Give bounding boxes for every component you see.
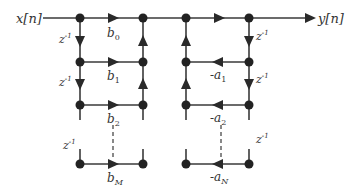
diagram-canvas: x[n] y[n] z-1 z-1 z-1 z-1 z-1 z-1 b0 b1 …	[0, 0, 356, 194]
svg-text:z-1: z-1	[58, 75, 72, 89]
svg-text:b2: b2	[107, 112, 120, 128]
svg-text:-a1: -a1	[210, 68, 226, 84]
input-label: x[n]	[16, 11, 43, 26]
signal-flow-diagram: x[n] y[n] z-1 z-1 z-1 z-1 z-1 z-1 b0 b1 …	[0, 0, 356, 194]
svg-text:-aN: -aN	[210, 170, 229, 186]
svg-text:z-1: z-1	[255, 29, 269, 43]
output-label: y[n]	[317, 11, 345, 26]
svg-text:bM: bM	[107, 171, 124, 187]
svg-text:z-1: z-1	[255, 132, 269, 146]
feedback-coefficients: -a1 -a2 -aN	[210, 68, 229, 186]
svg-text:z-1: z-1	[58, 32, 72, 46]
delay-labels: z-1 z-1 z-1 z-1 z-1 z-1	[58, 29, 269, 152]
svg-text:-a2: -a2	[210, 111, 226, 127]
svg-text:b0: b0	[107, 26, 120, 42]
node-dots	[76, 14, 254, 169]
svg-text:z-1: z-1	[62, 138, 76, 152]
svg-text:b1: b1	[107, 69, 120, 85]
svg-text:z-1: z-1	[255, 72, 269, 86]
